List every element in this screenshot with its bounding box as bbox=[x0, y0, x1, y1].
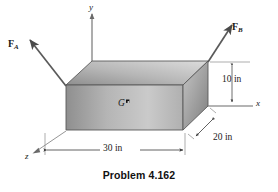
height-dimension-label: 10 in bbox=[222, 75, 241, 85]
force-a-subscript: A bbox=[14, 43, 19, 51]
x-axis-label: x bbox=[256, 99, 260, 108]
z-axis-label: z bbox=[25, 152, 29, 161]
force-b-arrow bbox=[208, 25, 232, 62]
center-of-gravity-marker bbox=[126, 100, 129, 103]
force-b-subscript: B bbox=[238, 26, 243, 34]
force-a-arrow bbox=[30, 40, 66, 86]
y-axis-label: y bbox=[89, 3, 93, 12]
force-b-label: FB bbox=[232, 22, 243, 34]
figure-container: y x z FA FB G 10 in 20 in 30 in Problem … bbox=[0, 0, 278, 192]
figure-caption: Problem 4.162 bbox=[0, 169, 278, 181]
width-dimension-label: 30 in bbox=[103, 144, 122, 154]
center-of-gravity-label: G bbox=[118, 99, 125, 109]
depth-dimension-label: 20 in bbox=[213, 133, 232, 143]
force-a-label: FA bbox=[8, 39, 19, 51]
